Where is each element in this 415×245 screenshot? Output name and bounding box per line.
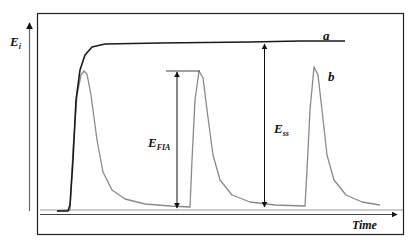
curve-b-fia-peaks (57, 67, 380, 211)
efia-label-main: E (148, 135, 157, 150)
efia-label: EFIA (148, 136, 170, 152)
y-axis-label-sub: i (19, 42, 21, 51)
ess-label-main: E (274, 121, 283, 136)
curve-a-steady-state (57, 41, 345, 211)
x-axis-label: Time (352, 219, 377, 231)
curve-b-label: b (328, 70, 335, 83)
flow-injection-diagram (0, 0, 415, 245)
y-axis-label-main: E (10, 34, 19, 49)
curve-a-label: a (323, 29, 330, 42)
y-axis-label: Ei (10, 35, 21, 51)
ess-label: Ess (274, 122, 289, 138)
ess-label-sub: ss (283, 129, 289, 138)
efia-label-sub: FIA (157, 143, 171, 152)
